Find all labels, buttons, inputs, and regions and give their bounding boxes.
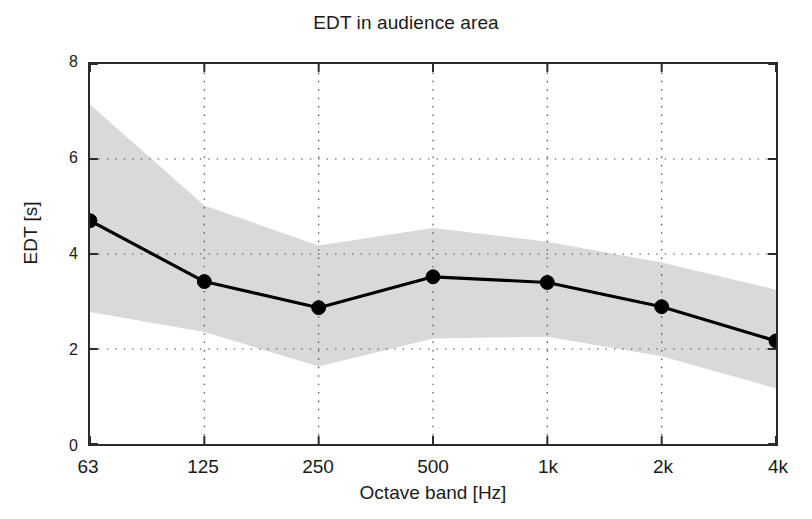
x-tick-label-500: 500: [398, 455, 468, 479]
x-tick-label-2k: 2k: [628, 455, 698, 479]
x-axis-tick-labels: 63 125 250 500 1k 2k 4k: [88, 455, 778, 481]
plot-svg: [90, 64, 776, 444]
y-axis-tick-labels: 8 6 4 2 0: [40, 62, 78, 446]
x-tick-label-4k: 4k: [743, 455, 812, 479]
plot-area: [88, 62, 778, 446]
x-tick-label-63: 63: [53, 455, 123, 479]
x-tick-label-250: 250: [283, 455, 353, 479]
x-tick-label-1k: 1k: [513, 455, 583, 479]
y-tick-label-0: 0: [40, 435, 78, 457]
chart-title: EDT in audience area: [0, 12, 812, 34]
spread-band-polygon: [90, 104, 776, 388]
chart-figure: EDT in audience area EDT [s] 8 6 4 2 0 6…: [0, 0, 812, 519]
y-tick-label-8: 8: [40, 51, 78, 73]
y-axis-title: EDT [s]: [20, 158, 42, 308]
y-tick-label-6: 6: [40, 147, 78, 169]
y-tick-label-4: 4: [40, 243, 78, 265]
x-axis-title: Octave band [Hz]: [88, 482, 778, 504]
spread-band: [90, 104, 776, 388]
y-tick-label-2: 2: [40, 339, 78, 361]
x-tick-label-125: 125: [168, 455, 238, 479]
